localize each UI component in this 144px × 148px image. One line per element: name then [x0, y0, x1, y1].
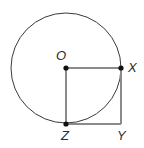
geometry-canvas	[0, 0, 144, 148]
point-label-X: X	[128, 61, 137, 74]
point-label-Y: Y	[117, 129, 126, 142]
point-label-Z: Z	[61, 129, 69, 142]
point-label-O: O	[56, 49, 66, 62]
point-dot-Z	[63, 121, 68, 126]
geometry-figure: O X Z Y	[0, 0, 144, 148]
point-dot-O	[63, 65, 68, 70]
point-dot-X	[118, 65, 123, 70]
